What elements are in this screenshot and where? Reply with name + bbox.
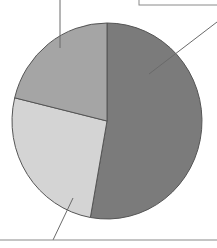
pie-chart: [0, 0, 217, 248]
callout-label-box: [139, 0, 217, 5]
pie-chart-canvas: [0, 0, 217, 248]
